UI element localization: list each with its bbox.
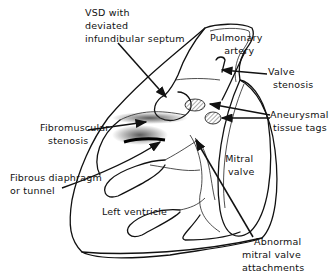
label-vsd: VSD with deviated infundibular septum	[85, 6, 185, 45]
tissue-tags	[185, 99, 221, 124]
label-left-ventricle: Left ventricle	[102, 205, 167, 218]
valve-stenosis-arrow	[222, 70, 267, 74]
label-pulmonary-artery: Pulmonary artery	[210, 31, 262, 57]
label-aneurysmal-tissue-tags: Aneurysmal tissue tags	[270, 108, 329, 134]
label-fibrous-diaphragm: Fibrous diaphragm or tunnel	[10, 171, 102, 197]
vsd-region	[112, 92, 191, 124]
label-fibromuscular-stenosis: Fibromuscular stenosis	[40, 121, 109, 147]
label-abnormal-mitral-attachments: Abnormal mitral valve attachments	[242, 235, 304, 274]
aneurysmal-arrow-1	[210, 104, 270, 115]
label-valve-stenosis: Valve stenosis	[268, 65, 314, 91]
label-mitral-valve: Mitral valve	[224, 152, 255, 178]
vsd-arrow	[118, 43, 166, 97]
